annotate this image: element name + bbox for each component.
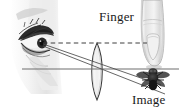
finger-illustration xyxy=(141,0,164,69)
fly-image-illustration xyxy=(136,68,170,90)
finger-label: Finger xyxy=(99,10,134,23)
image-label: Image xyxy=(132,93,165,106)
converging-lens xyxy=(92,43,103,100)
eye-sketch xyxy=(10,0,62,94)
optics-ray-diagram: Finger Image xyxy=(0,0,181,111)
